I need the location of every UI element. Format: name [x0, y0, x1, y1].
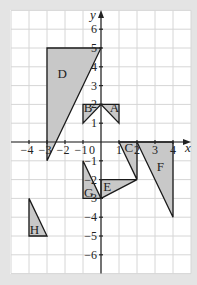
y-tick-label: 3 [91, 79, 97, 93]
x-tick-label: 2 [134, 143, 140, 157]
y-tick-label: −6 [84, 248, 97, 262]
shape-label-e: E [103, 179, 111, 194]
x-tick-label: 3 [152, 143, 158, 157]
y-tick-label: 4 [91, 60, 97, 74]
y-tick-label: −2 [84, 173, 97, 187]
y-tick-label: −5 [84, 229, 97, 243]
x-tick-label: −3 [39, 143, 52, 157]
shape-label-f: F [157, 159, 164, 174]
origin-label: 0 [89, 143, 95, 157]
shape-label-h: H [30, 222, 39, 237]
shape-label-d: D [58, 66, 67, 81]
y-tick-label: 1 [91, 116, 97, 130]
y-tick-label: 6 [91, 22, 97, 36]
x-tick-label: −4 [21, 143, 34, 157]
x-tick-label: 1 [116, 143, 122, 157]
x-axis-label: x [184, 140, 191, 155]
shape-label-c: C [125, 140, 134, 155]
shape-label-a: A [110, 100, 120, 115]
coordinate-grid-diagram: ABCDEFGH−4−3−2−11234654321−1−2−3−4−5−60x… [0, 0, 197, 285]
x-tick-label: −2 [57, 143, 70, 157]
y-axis-label: y [88, 7, 96, 22]
y-tick-label: −4 [84, 210, 97, 224]
y-tick-label: 2 [91, 97, 97, 111]
x-tick-label: 4 [170, 143, 176, 157]
y-tick-label: 5 [91, 41, 97, 55]
y-tick-label: −3 [84, 191, 97, 205]
